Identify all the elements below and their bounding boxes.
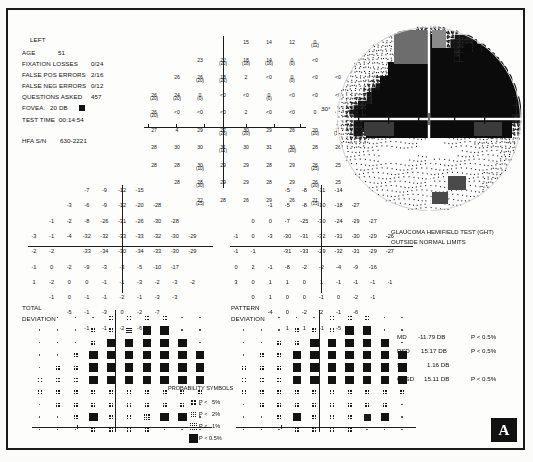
index-value-0: -11.79 DB: [418, 333, 445, 340]
pattern-deviation-symbol-cell-r4-c1-p5: [259, 365, 264, 370]
pattern-deviation-num-r3-c5: -32: [313, 234, 331, 240]
total-deviation-symbol-cell-r9-c7-empty: [164, 429, 165, 430]
threshold-cell-r6-c0: 28: [145, 145, 163, 150]
total-deviation-num-r4-c7: -33: [148, 249, 166, 255]
legend-text-1: P < 2%: [199, 411, 220, 417]
pattern-deviation-symbol-cell-r7-c0-empty: [243, 404, 244, 405]
total-deviation-num-r6-c3: 0: [78, 280, 96, 286]
pattern-deviation-symbol-cell-r4-c5-p05: [328, 363, 336, 371]
visual-field-printout-page: LEFT AGE 51 FIXATION LOSSES 0/24 FALSE P…: [0, 0, 533, 462]
threshold-cell-r1-c5: 14(16): [260, 58, 278, 67]
grayscale-30deg-label: 30°: [321, 106, 331, 112]
total-deviation-symbol-cell-r8-c0-empty: [39, 416, 40, 417]
total-deviation-symbol-cell-r9-c6-p5: [144, 427, 149, 432]
threshold-cell-r3-c2: 0(0): [191, 93, 209, 102]
pattern-deviation-num-r4-c0: -1: [227, 249, 245, 255]
total-deviation-symbol-cell-r6-c6-p5: [144, 390, 149, 395]
total-deviation-symbol-cell-r2-c8-p05: [178, 339, 186, 347]
total-deviation-num-r5-c5: -3: [113, 265, 131, 271]
pattern-deviation-num-r2-c6: -24: [330, 219, 348, 225]
pattern-deviation-num-r3-c7: -30: [347, 234, 365, 240]
total-deviation-symbol-cell-r4-c9-p05: [196, 363, 204, 371]
total-deviation-symbol-cell-r2-c5-p05: [125, 339, 133, 347]
pattern-deviation-symbol-cell-r1-c6-p05: [345, 326, 353, 334]
questions-asked-label: QUESTIONS ASKED: [22, 94, 82, 100]
total-deviation-symbol-cell-r6-c2-p5: [73, 390, 78, 395]
pattern-deviation-num-r4-c9: -27: [381, 249, 399, 255]
threshold-cell-r6-c6: 30(20): [283, 145, 301, 154]
total-deviation-symbol-cell-r9-c8-empty: [181, 429, 182, 430]
threshold-cell-r9-c4: 26: [237, 198, 255, 203]
pattern-deviation-symbol-cell-r5-c0-p5: [241, 377, 246, 382]
total-deviation-symbol-cell-r4-c1-p5: [55, 365, 60, 370]
total-deviation-symbol-cell-r6-c1-p5: [55, 390, 60, 395]
total-deviation-num-r1-c2: -3: [60, 203, 78, 209]
pattern-deviation-symbol-cell-r2-c1-empty: [261, 342, 262, 343]
threshold-cell-r5-c0: 27: [145, 128, 163, 133]
legend-title: PROBABILITY SYMBOLS: [168, 385, 233, 391]
threshold-cell-r3-c4: <0: [237, 93, 255, 98]
index-value-2: 1.16 DB: [427, 361, 449, 368]
pattern-deviation-symbol-cell-r5-c8-p05: [381, 376, 389, 384]
pattern-deviation-num-r2-c7: -29: [347, 219, 365, 225]
pattern-deviation-num-r0-c3: -5: [278, 188, 296, 194]
pattern-deviation-symbol-cell-r7-c9-empty: [401, 404, 402, 405]
threshold-cell-r8-c1: 28: [168, 180, 186, 185]
pattern-deviation-num-r6-c0: 3: [227, 280, 245, 286]
false-pos-errors-label: FALSE POS ERRORS: [22, 72, 86, 78]
pattern-deviation-symbol-cell-r5-c5-p05: [328, 376, 336, 384]
total-deviation-symbol-cell-r3-c3-p05: [89, 351, 97, 359]
threshold-cell-r2-c2: 26(20): [191, 75, 209, 84]
pattern-deviation-horizontal-axis: [230, 246, 413, 247]
total-deviation-symbol-cell-r9-c4-p5: [109, 427, 114, 432]
pattern-deviation-symbol-cell-r4-c7-p05: [363, 363, 371, 371]
threshold-cell-r6-c7: 28: [306, 145, 324, 150]
total-deviation-num-r2-c8: -28: [166, 219, 184, 225]
hfa-serial-label: HFA S/N: [22, 138, 46, 144]
total-deviation-symbol-cell-r0-c4-p5: [109, 315, 114, 320]
pattern-deviation-symbol-cell-r6-c8-p5: [382, 390, 387, 395]
pattern-deviation-num-r5-c6: -4: [330, 265, 348, 271]
threshold-cell-r5-c1: 4: [168, 128, 186, 133]
pattern-deviation-symbol-cell-r8-c6-p5: [347, 415, 352, 420]
legend-text-3: P < 0.5%: [199, 435, 222, 441]
pattern-deviation-num-r5-c5: -2: [313, 265, 331, 271]
pattern-deviation-num-r7-c5: -1: [313, 295, 331, 301]
pattern-deviation-num-r1-c5: -10: [313, 203, 331, 209]
total-deviation-symbol-cell-r6-c5-p5: [126, 390, 131, 395]
threshold-cell-r5-c3: 27(23): [214, 128, 232, 137]
pattern-deviation-symbol-cell-r2-c5-p05: [328, 339, 336, 347]
eye-label: LEFT: [30, 37, 46, 43]
test-time-value: 00:14:54: [59, 117, 84, 123]
total-deviation-num-r2-c2: -2: [60, 219, 78, 225]
total-deviation-num-r4-c6: -34: [131, 249, 149, 255]
total-deviation-symbol-cell-r7-c6-p5: [144, 402, 149, 407]
pattern-deviation-symbol-cell-r0-c0-empty: [243, 317, 244, 318]
total-deviation-symbol-cell-r5-c1-p5: [55, 377, 60, 382]
total-deviation-symbol-cell-r9-c1-empty: [57, 429, 58, 430]
total-deviation-symbol-cell-r1-c7-p05: [160, 326, 168, 334]
pattern-deviation-num-r0-c4: -8: [295, 188, 313, 194]
pattern-deviation-num-r6-c2: 1: [261, 280, 279, 286]
total-deviation-num-r5-c6: -5: [131, 265, 149, 271]
total-deviation-num-r7-c7: -3: [148, 295, 166, 301]
total-deviation-num-r0-c5: -12: [113, 188, 131, 194]
total-deviation-num-r7-c5: -2: [113, 295, 131, 301]
total-deviation-symbol-cell-r8-c5-p5: [126, 415, 131, 420]
index-name-2: SF: [397, 361, 405, 368]
total-deviation-symbol-cell-r7-c4-p5: [109, 402, 114, 407]
pattern-deviation-symbol-cell-r3-c6-p05: [345, 351, 353, 359]
legend-symbol-p5-icon: [189, 398, 198, 407]
pattern-deviation-symbol-cell-r3-c1-p5: [259, 353, 264, 358]
pattern-deviation-symbol-cell-r1-c2-empty: [278, 329, 279, 330]
total-deviation-symbol-cell-r8-c4-p5: [109, 415, 114, 420]
pattern-deviation-num-r5-c4: -2: [295, 265, 313, 271]
legend-symbol-p05-icon: [189, 434, 198, 443]
pattern-deviation-num-r2-c4: -25: [295, 219, 313, 225]
total-deviation-symbol-cell-r1-c3-p5: [91, 328, 96, 333]
pattern-deviation-symbol-cell-r6-c0-p5: [241, 390, 246, 395]
pattern-deviation-symbol-cell-r8-c1-empty: [261, 416, 262, 417]
total-deviation-num-r5-c3: -9: [78, 265, 96, 271]
pattern-deviation-num-r3-c3: -30: [278, 234, 296, 240]
threshold-cell-r8-c2: 28(30): [191, 180, 209, 189]
